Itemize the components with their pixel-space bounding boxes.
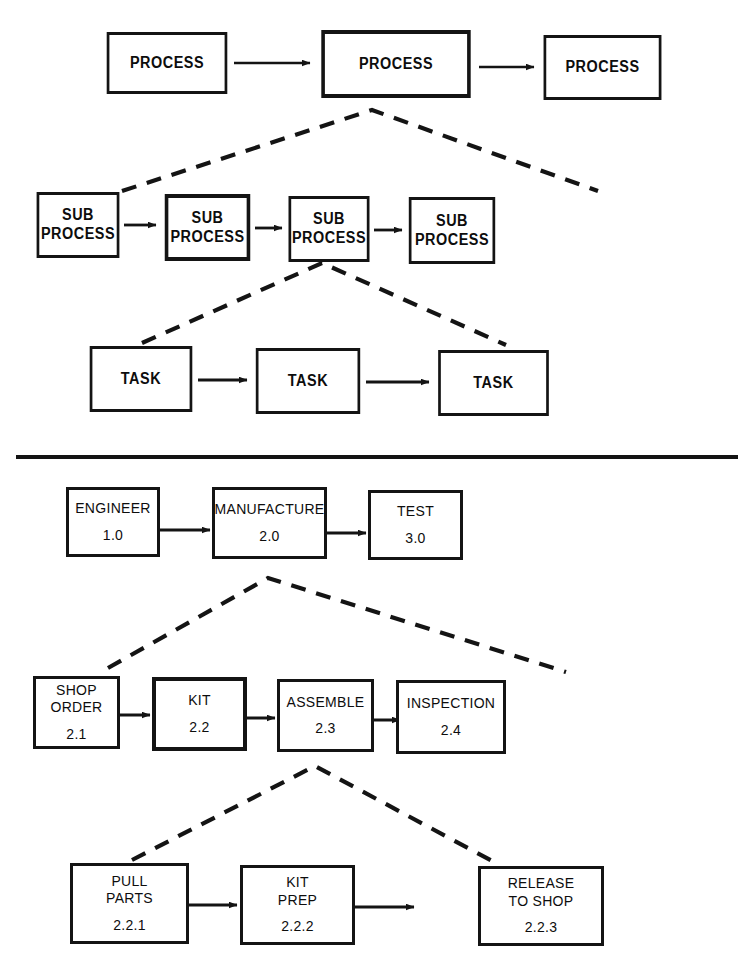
decomposition-fan-kit-to-level3: [132, 766, 494, 862]
node-label-line2: PROCESS: [170, 228, 244, 247]
node-label-line2: PROCESS: [41, 225, 115, 244]
node-task-3[interactable]: TASK: [438, 350, 549, 416]
node-label: PROCESS: [565, 58, 639, 77]
node-label-line1: SUB: [436, 212, 468, 231]
node-label-line1: KIT: [286, 874, 309, 892]
node-label-line1: SUB: [313, 210, 345, 229]
node-kit-prep[interactable]: KIT PREP 2.2.2: [240, 865, 355, 945]
node-label-line1: PULL: [111, 873, 147, 891]
node-label: TASK: [473, 374, 513, 393]
node-pull-parts[interactable]: PULL PARTS 2.2.1: [70, 863, 189, 944]
node-process-1[interactable]: PROCESS: [107, 32, 228, 94]
node-shop-order[interactable]: SHOP ORDER 2.1: [33, 676, 120, 749]
node-inspection[interactable]: INSPECTION 2.4: [396, 680, 506, 754]
node-number: 2.0: [259, 528, 279, 546]
node-label: TASK: [288, 372, 328, 391]
node-task-1[interactable]: TASK: [90, 346, 193, 412]
node-assemble[interactable]: ASSEMBLE 2.3: [277, 679, 374, 752]
node-release-to-shop[interactable]: RELEASE TO SHOP 2.2.3: [478, 866, 604, 946]
section-divider: [16, 455, 738, 459]
node-label: PROCESS: [130, 54, 204, 73]
decomposition-fan-manufacture-to-level2: [108, 578, 566, 672]
node-number: 1.0: [103, 527, 123, 545]
node-label-line2: PARTS: [106, 890, 153, 908]
node-label-line1: SUB: [62, 206, 94, 225]
decomposition-fan-subprocess-to-task: [142, 263, 506, 345]
node-label-line2: PREP: [278, 892, 317, 910]
node-label-line1: RELEASE: [508, 875, 575, 893]
node-label-line1: ASSEMBLE: [287, 694, 365, 712]
node-number: 3.0: [405, 530, 425, 548]
node-task-2[interactable]: TASK: [256, 348, 360, 414]
node-label-line1: TEST: [397, 503, 434, 521]
node-kit[interactable]: KIT 2.2: [152, 677, 247, 751]
node-test[interactable]: TEST 3.0: [368, 490, 463, 560]
node-process-3[interactable]: PROCESS: [544, 35, 662, 100]
node-number: 2.2: [189, 719, 209, 737]
node-number: 2.1: [66, 726, 86, 744]
node-sub-process-3[interactable]: SUB PROCESS: [289, 196, 370, 262]
connector-layer: [0, 0, 750, 963]
node-label-line1: MANUFACTURE: [215, 501, 325, 519]
node-label: TASK: [121, 370, 161, 389]
node-sub-process-1[interactable]: SUB PROCESS: [37, 192, 120, 258]
diagram-canvas: PROCESS PROCESS PROCESS SUB PROCESS SUB …: [0, 0, 750, 963]
node-number: 2.3: [315, 720, 335, 738]
node-label-line2: PROCESS: [292, 229, 366, 248]
node-label-line1: ENGINEER: [75, 500, 151, 518]
node-process-2[interactable]: PROCESS: [321, 30, 470, 98]
node-label-line2: ORDER: [50, 699, 102, 717]
node-sub-process-4[interactable]: SUB PROCESS: [409, 197, 495, 264]
node-engineer[interactable]: ENGINEER 1.0: [66, 487, 160, 557]
node-sub-process-2[interactable]: SUB PROCESS: [165, 194, 251, 261]
node-number: 2.4: [441, 722, 461, 740]
node-label-line1: SUB: [191, 209, 223, 228]
node-manufacture[interactable]: MANUFACTURE 2.0: [212, 487, 327, 559]
node-label-line1: KIT: [188, 692, 211, 710]
node-number: 2.2.3: [525, 919, 558, 937]
node-label-line1: SHOP: [56, 682, 97, 700]
node-number: 2.2.1: [113, 917, 146, 935]
node-label-line1: INSPECTION: [407, 695, 496, 713]
node-number: 2.2.2: [281, 918, 314, 936]
node-label: PROCESS: [359, 55, 433, 74]
node-label-line2: TO SHOP: [509, 893, 574, 911]
decomposition-fan-process-to-subprocess: [122, 110, 598, 191]
node-label-line2: PROCESS: [415, 231, 489, 250]
